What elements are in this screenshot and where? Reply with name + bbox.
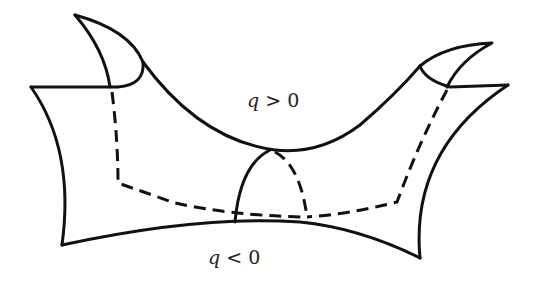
saddle-top-curve [75,15,420,151]
saddle-surface-diagram [0,0,537,281]
right-wing-lower-edge [420,66,508,87]
left-wing-top-edge [31,62,143,87]
label-q-positive: q > 0 [247,89,299,111]
arch-back-dashed [275,152,307,217]
arch-front [235,150,270,222]
left-outer-edge [31,87,65,245]
label-q-negative: q < 0 [208,246,260,268]
right-outer-edge [419,85,508,258]
